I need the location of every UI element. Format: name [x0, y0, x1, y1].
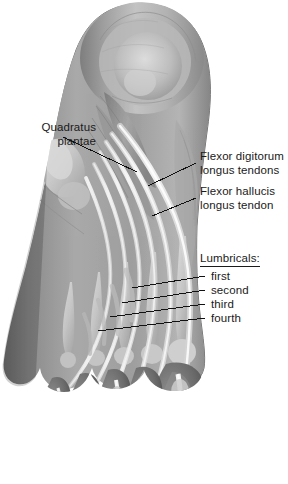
lumbrical-fourth-text: fourth — [211, 312, 241, 326]
label-lumbrical-third: third — [211, 298, 234, 312]
label-flexor-hallucis-longus-tendon: Flexor hallucis longus tendon — [200, 185, 275, 212]
lumbrical-third-text: third — [211, 298, 234, 312]
label-lumbricals-heading: Lumbricals: — [200, 252, 260, 267]
label-lumbrical-fourth: fourth — [211, 312, 241, 326]
flexor-digitorum-line-1: Flexor digitorum — [200, 150, 284, 164]
lumbrical-second-text: second — [211, 284, 249, 298]
lumbricals-heading-text: Lumbricals: — [200, 252, 260, 267]
flexor-hallucis-line-1: Flexor hallucis — [200, 185, 275, 199]
label-quadratus-plantae: Quadratus plantae — [2, 121, 96, 148]
flexor-digitorum-line-2: longus tendons — [200, 164, 284, 178]
lumbrical-first-text: first — [211, 270, 230, 284]
label-flexor-digitorum-longus-tendons: Flexor digitorum longus tendons — [200, 150, 284, 177]
plantar-foot-dissection-image — [0, 0, 288, 484]
quadratus-plantae-line-2: plantae — [2, 135, 96, 149]
quadratus-plantae-line-1: Quadratus — [2, 121, 96, 135]
label-lumbrical-first: first — [211, 270, 230, 284]
label-lumbrical-second: second — [211, 284, 249, 298]
flexor-hallucis-line-2: longus tendon — [200, 199, 275, 213]
anatomy-figure: Quadratus plantae Flexor digitorum longu… — [0, 0, 288, 484]
